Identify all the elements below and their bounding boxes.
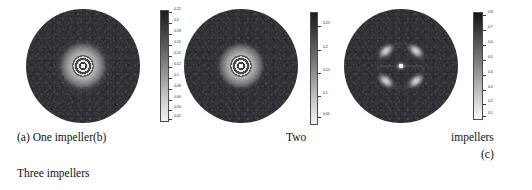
colorbar-tick-label: 0.1 (174, 74, 179, 78)
disc-a (26, 9, 140, 123)
colorbar-tick: 0.18 (169, 34, 172, 35)
colorbar-tick-label: 0.1 (488, 112, 493, 116)
panel-one-impeller (22, 6, 152, 128)
colorbar-b: 0.25 0.2 0.15 0.1 0.05 (310, 12, 318, 125)
colorbar-tick: 0.12 (169, 67, 172, 68)
colorbar-a: 0.22 0.2 0.18 0.16 0.14 0.12 0.1 0.08 0.… (160, 10, 169, 122)
colorbar-tick-label: 0.1 (323, 92, 328, 96)
colorbar-tick-label: 0.8 (488, 11, 493, 15)
colorbar-tick-label: 0.25 (323, 22, 330, 26)
colorbar-tick: 0.4 (483, 75, 486, 76)
panel-three-impellers (340, 6, 470, 128)
colorbar-tick-label: 0.2 (174, 19, 179, 23)
colorbar-tick: 0.06 (169, 100, 172, 101)
colorbar-tick-label: 0.5 (488, 56, 493, 60)
colorbar-tick-label: 0.15 (323, 69, 330, 73)
colorbar-tick: 0.14 (169, 56, 172, 57)
concentric-rings (230, 55, 252, 77)
figure-root: 0.22 0.2 0.18 0.16 0.14 0.12 0.1 0.08 0.… (0, 0, 532, 190)
caption-a: (a) One impeller(b) (17, 131, 106, 144)
colorbar-tick: 0.2 (483, 104, 486, 105)
colorbar-tick-label: 0.4 (488, 71, 493, 75)
colorbar-tick-label: 0.2 (488, 100, 493, 104)
colorbar-tick: 0.25 (318, 26, 321, 27)
colorbar-tick-label: 0.7 (488, 26, 493, 30)
colorbar-tick: 0.04 (169, 110, 172, 111)
colorbar-tick-label: 0.05 (323, 113, 330, 117)
contour-plot-a (22, 6, 144, 128)
colorbar-tick: 0.2 (318, 50, 321, 51)
colorbar-c: 0.8 0.7 0.6 0.5 0.4 0.3 0.2 0.1 (473, 12, 483, 120)
colorbar-tick: 0.05 (318, 117, 321, 118)
contour-plot-c (340, 6, 462, 128)
caption-three-impellers: Three impellers (17, 167, 89, 180)
colorbar-gradient-a (160, 10, 169, 122)
colorbar-tick-label: 0.3 (488, 86, 493, 90)
caption-c-impellers: impellers (451, 131, 494, 144)
colorbar-tick: 0.15 (318, 73, 321, 74)
panel-two-impellers (180, 6, 310, 128)
colorbar-tick-label: 0.6 (488, 41, 493, 45)
colorbar-tick: 0.5 (483, 60, 486, 61)
colorbar-tick-label: 0.2 (323, 46, 328, 50)
colorbar-tick: 0.6 (483, 45, 486, 46)
colorbar-tick: 0.22 (169, 12, 172, 13)
colorbar-tick: 0.02 (169, 119, 172, 120)
colorbar-tick: 0.7 (483, 30, 486, 31)
caption-c-label: (c) (481, 148, 494, 161)
colorbar-tick: 0.1 (169, 78, 172, 79)
colorbar-gradient-b (310, 12, 318, 125)
colorbar-tick: 0.08 (169, 89, 172, 90)
colorbar-gradient-c (473, 12, 483, 120)
disc-c (344, 9, 458, 123)
colorbar-tick: 0.2 (169, 23, 172, 24)
contour-plot-b (180, 6, 302, 128)
colorbar-tick: 0.8 (483, 15, 486, 16)
colorbar-tick: 0.16 (169, 45, 172, 46)
colorbar-tick: 0.1 (318, 96, 321, 97)
colorbar-tick: 0.3 (483, 90, 486, 91)
concentric-rings (72, 55, 94, 77)
disc-b (184, 9, 298, 123)
caption-b: Two (286, 131, 306, 144)
colorbar-tick: 0.1 (483, 116, 486, 117)
centre-dot (399, 64, 403, 68)
